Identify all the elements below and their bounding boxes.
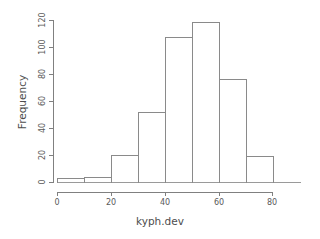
- y-tick-120: [49, 20, 53, 21]
- histogram-bar: [219, 79, 247, 183]
- y-tick-60: [49, 101, 53, 102]
- x-tick-40: [165, 192, 166, 196]
- x-tick-80: [272, 192, 273, 196]
- y-tick-label-80: 80: [39, 64, 47, 84]
- x-tick-0: [57, 192, 58, 196]
- x-axis-title: kyph.dev: [0, 215, 320, 227]
- x-tick-label-40: 40: [155, 199, 175, 207]
- y-tick-20: [49, 155, 53, 156]
- y-tick-label-120: 120: [39, 8, 47, 32]
- histogram-bar: [84, 177, 112, 183]
- y-tick-label-20: 20: [39, 145, 47, 165]
- x-tick-20: [111, 192, 112, 196]
- histogram-bar: [111, 155, 139, 183]
- y-axis-line: [53, 20, 54, 183]
- y-tick-label-40: 40: [39, 118, 47, 138]
- y-axis-title: Frequency: [16, 62, 28, 142]
- y-tick-0: [49, 182, 53, 183]
- histogram-bar: [165, 37, 193, 183]
- histogram-bar: [192, 22, 220, 183]
- y-tick-label-60: 60: [39, 91, 47, 111]
- histogram-bar: [138, 112, 166, 183]
- y-tick-label-0: 0: [39, 172, 47, 192]
- y-tick-label-100: 100: [39, 35, 47, 59]
- x-tick-label-80: 80: [262, 199, 282, 207]
- histogram-bar: [57, 178, 85, 183]
- y-tick-100: [49, 47, 53, 48]
- y-tick-80: [49, 74, 53, 75]
- x-tick-60: [219, 192, 220, 196]
- histogram-bar: [246, 156, 274, 183]
- y-tick-40: [49, 128, 53, 129]
- histogram-plot: 0 20 40 60 80 100 120 0 20 40 60 80 kyph…: [0, 0, 320, 239]
- x-tick-label-0: 0: [47, 199, 67, 207]
- x-tick-label-60: 60: [209, 199, 229, 207]
- x-tick-label-20: 20: [101, 199, 121, 207]
